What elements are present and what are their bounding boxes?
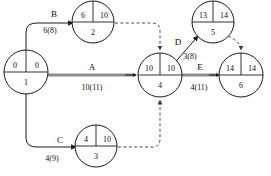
activity-duration-D: 3(8) [183, 52, 197, 61]
node-6-late-time: 14 [248, 64, 256, 73]
dummy-edge-2-to-4 [115, 23, 160, 50]
node-2-id: 2 [91, 28, 95, 37]
node-6-early-time: 14 [226, 64, 234, 73]
node-3-id: 3 [94, 152, 98, 161]
node-6-id: 6 [239, 81, 243, 90]
node-2[interactable]: 6 10 2 [72, 1, 114, 43]
node-1-id: 1 [24, 78, 28, 87]
node-4[interactable]: 10 10 4 [138, 53, 182, 97]
activity-duration-E: 4(11) [190, 83, 207, 92]
node-1-late-time: 0 [35, 61, 39, 70]
node-4-late-time: 10 [167, 64, 175, 73]
activity-duration-B: 6(8) [43, 26, 57, 35]
node-4-early-time: 10 [145, 64, 153, 73]
node-1-early-time: 0 [13, 61, 17, 70]
activity-label-E: E [197, 62, 203, 72]
node-4-id: 4 [158, 81, 162, 90]
activity-duration-A: 10(11) [81, 83, 102, 92]
activity-duration-C: 4(9) [45, 154, 59, 163]
network-diagram: 0 0 1 6 10 2 4 10 3 10 10 [0, 0, 271, 176]
node-3[interactable]: 4 10 3 [75, 125, 117, 167]
network-canvas: 0 0 1 6 10 2 4 10 3 10 10 [0, 0, 271, 176]
node-3-early-time: 4 [84, 135, 88, 144]
node-6[interactable]: 14 14 6 [219, 53, 263, 97]
node-5-id: 5 [211, 28, 215, 37]
activity-label-A: A [89, 62, 96, 72]
node-1[interactable]: 0 0 1 [4, 50, 48, 94]
node-2-late-time: 10 [100, 11, 108, 20]
node-5-early-time: 13 [199, 11, 207, 20]
activity-edge-C [26, 94, 76, 147]
node-5[interactable]: 13 14 5 [192, 1, 234, 43]
node-2-early-time: 6 [81, 11, 85, 20]
activity-label-C: C [57, 135, 63, 145]
activity-label-B: B [51, 9, 57, 19]
dummy-edge-5-to-6 [228, 36, 241, 50]
dummy-edge-3-to-4 [118, 100, 160, 147]
activity-label-D: D [175, 37, 182, 47]
node-3-late-time: 10 [103, 135, 111, 144]
node-5-late-time: 14 [220, 11, 228, 20]
